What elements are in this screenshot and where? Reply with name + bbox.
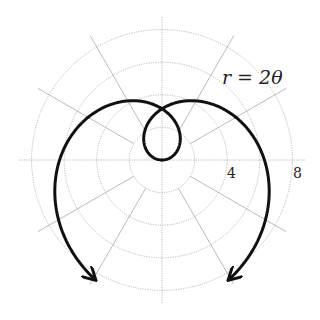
polar-plot-area [0, 0, 320, 320]
curve-branch [55, 101, 180, 280]
r-tick-label-4: 4 [227, 165, 236, 181]
equation-label: r = 2θ [222, 66, 283, 88]
polar-chart: r = 2θ 4 8 [0, 0, 320, 320]
grid-spoke [90, 188, 145, 284]
grid-spoke [178, 188, 233, 284]
grid-spoke [190, 176, 286, 231]
grid-spoke [38, 88, 134, 143]
grid-spoke [190, 88, 286, 143]
grid-spoke [38, 176, 134, 231]
grid-spoke [90, 36, 145, 132]
r-tick-label-8: 8 [293, 165, 302, 181]
